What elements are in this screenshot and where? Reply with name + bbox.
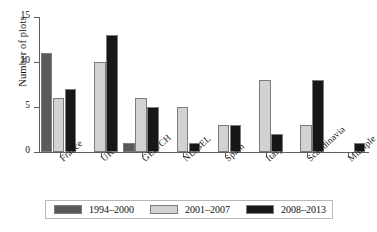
legend-item[interactable]: 1994–2000: [54, 201, 134, 218]
bar: [41, 53, 53, 152]
legend-color-swatch: [150, 205, 178, 214]
y-axis-tick: 15: [34, 17, 39, 18]
y-axis-tick-label: 15: [21, 10, 31, 20]
bar-chart-figure: Number of plots 051015FranceUKGER/CHNL/B…: [0, 0, 377, 232]
legend-color-swatch: [246, 205, 274, 214]
y-axis-tick-label: 0: [25, 145, 30, 155]
bar: [177, 107, 189, 152]
legend-item[interactable]: 2001–2007: [150, 201, 230, 218]
bar: [123, 143, 135, 152]
bar: [218, 125, 230, 152]
y-axis-tick-label: 10: [21, 55, 31, 65]
legend-label: 1994–2000: [89, 204, 134, 215]
bar: [94, 62, 106, 152]
legend-label: 2008–2013: [281, 204, 326, 215]
y-axis-tick: 0: [34, 152, 39, 153]
chart-legend: 1994–20002001–20072008–2013: [45, 200, 333, 219]
y-axis-tick: 10: [34, 62, 39, 63]
bar: [300, 125, 312, 152]
x-axis-category-label: Multiple: [346, 134, 377, 164]
plot-area: 051015FranceUKGER/CHNL/BELSpainItalyScan…: [39, 17, 369, 152]
legend-color-swatch: [54, 205, 82, 214]
legend-label: 2001–2007: [185, 204, 230, 215]
y-axis-tick-label: 5: [25, 100, 30, 110]
bar: [135, 98, 147, 152]
bar: [106, 35, 118, 152]
bar: [53, 98, 65, 152]
y-axis-tick: 5: [34, 107, 39, 108]
legend-item[interactable]: 2008–2013: [246, 201, 326, 218]
bar: [259, 80, 271, 152]
